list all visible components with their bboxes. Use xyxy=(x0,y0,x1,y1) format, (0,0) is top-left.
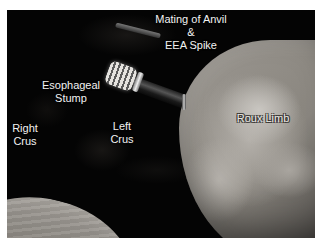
label-left-crus-line2: Crus xyxy=(106,133,138,146)
label-right-crus-line2: Crus xyxy=(8,135,42,148)
label-esophageal-line2: Stump xyxy=(35,92,107,105)
label-left-crus: Left Crus xyxy=(106,120,138,146)
label-mating-anvil-eea: Mating of Anvil & EEA Spike xyxy=(141,13,241,52)
label-right-crus: Right Crus xyxy=(8,122,42,148)
label-left-crus-line1: Left xyxy=(106,120,138,133)
label-mating-line3: EEA Spike xyxy=(141,39,241,52)
label-esophageal-line1: Esophageal xyxy=(35,79,107,92)
label-mating-line2: & xyxy=(141,26,241,39)
eea-spike xyxy=(182,94,186,110)
surgical-photo: Mating of Anvil & EEA Spike Esophageal S… xyxy=(7,10,315,238)
label-roux-limb: Roux Limb xyxy=(231,112,295,125)
label-mating-line1: Mating of Anvil xyxy=(141,13,241,26)
label-right-crus-line1: Right xyxy=(8,122,42,135)
label-esophageal-stump: Esophageal Stump xyxy=(35,79,107,105)
